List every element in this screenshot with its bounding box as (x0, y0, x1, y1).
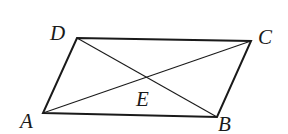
label-b: B (218, 112, 231, 134)
label-a: A (18, 109, 33, 133)
label-c: C (258, 25, 273, 49)
label-d: D (49, 21, 65, 45)
parallelogram-diagram: D C A B E (0, 0, 288, 134)
label-e: E (135, 87, 149, 111)
